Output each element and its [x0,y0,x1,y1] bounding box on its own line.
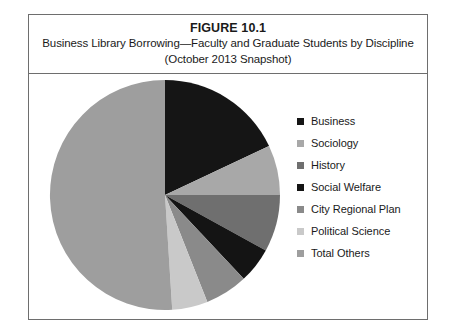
legend-item: Sociology [297,132,422,154]
legend-label: Total Others [311,247,370,260]
figure-box: FIGURE 10.1 Business Library Borrowing—F… [28,14,428,320]
legend-label: Social Welfare [311,181,381,194]
pie-chart [49,79,281,311]
figure-caption-line-2: (October 2013 Snapshot) [39,52,417,68]
legend-label: City Regional Plan [311,203,401,216]
legend-swatch-icon [297,184,304,191]
legend-swatch-icon [297,206,304,213]
pie-slice [50,80,172,310]
figure-caption-line-1: Business Library Borrowing—Faculty and G… [39,36,417,52]
legend-label: Political Science [311,225,390,238]
legend-label: History [311,159,345,172]
legend-swatch-icon [297,118,304,125]
legend-item: Total Others [297,242,422,264]
figure-header: FIGURE 10.1 Business Library Borrowing—F… [29,15,427,74]
chart-area: BusinessSociologyHistorySocial WelfareCi… [29,74,427,320]
legend-item: Political Science [297,220,422,242]
legend-label: Business [311,115,355,128]
legend-swatch-icon [297,228,304,235]
legend-swatch-icon [297,250,304,257]
legend-swatch-icon [297,140,304,147]
legend-swatch-icon [297,162,304,169]
legend-label: Sociology [311,137,358,150]
legend-item: City Regional Plan [297,198,422,220]
chart-legend: BusinessSociologyHistorySocial WelfareCi… [297,110,422,264]
legend-item: Social Welfare [297,176,422,198]
figure-number: FIGURE 10.1 [39,20,417,36]
legend-item: History [297,154,422,176]
legend-item: Business [297,110,422,132]
